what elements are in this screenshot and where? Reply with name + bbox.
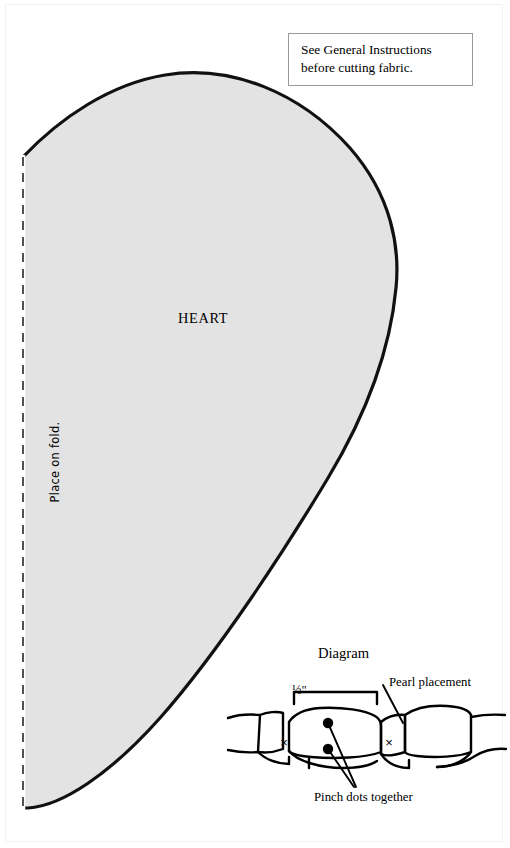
half-inch-bracket [294,692,377,704]
fabric-tail-right [405,706,506,767]
general-instructions-box: See General Instructions before cutting … [288,33,473,86]
stitch-mark-x-left: × [280,735,288,750]
instructions-line-1: See General Instructions [301,41,462,59]
pattern-piece-label: HEART [178,310,228,327]
pleat-diagram-illustration: × × [225,660,510,800]
place-on-fold-label: Place on fold. [48,397,62,527]
instructions-line-2: before cutting fabric. [301,59,462,77]
fabric-tail-left [228,715,260,718]
stitch-mark-x-right: × [385,735,393,750]
pinch-leader-lines [328,723,356,787]
pattern-page: See General Instructions before cutting … [0,0,510,848]
